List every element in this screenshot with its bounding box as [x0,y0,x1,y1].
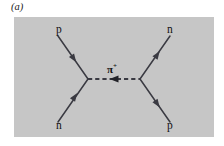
mediator-label-pion: π+ [107,64,117,75]
figure-root: (a) p n n p π+ [0,0,224,146]
diagram-panel [14,17,214,137]
mediator-label-charge: + [113,62,117,70]
particle-label-outgoing-neutron: n [167,23,173,35]
panel-label: (a) [11,1,23,13]
particle-label-incoming-neutron: n [56,119,62,131]
particle-label-outgoing-proton: p [167,119,173,131]
particle-label-incoming-proton: p [56,23,62,35]
